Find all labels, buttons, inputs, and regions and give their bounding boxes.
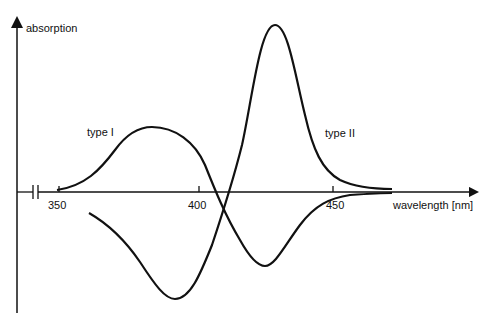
- x-axis: [17, 185, 474, 199]
- curve-type-2: [89, 25, 392, 299]
- series-label-type-1: type I: [87, 126, 114, 138]
- plot-area: [0, 0, 487, 330]
- y-axis-label: absorption: [26, 22, 77, 34]
- tick-label-450: 450: [326, 199, 344, 211]
- x-axis-label: wavelength [nm]: [393, 199, 473, 211]
- tick-label-400: 400: [188, 199, 206, 211]
- curve-type-1: [57, 127, 392, 266]
- series-label-type-2: type II: [325, 127, 355, 139]
- absorption-diagram: absorption wavelength [nm] 350 400 450 t…: [0, 0, 487, 330]
- tick-label-350: 350: [48, 199, 66, 211]
